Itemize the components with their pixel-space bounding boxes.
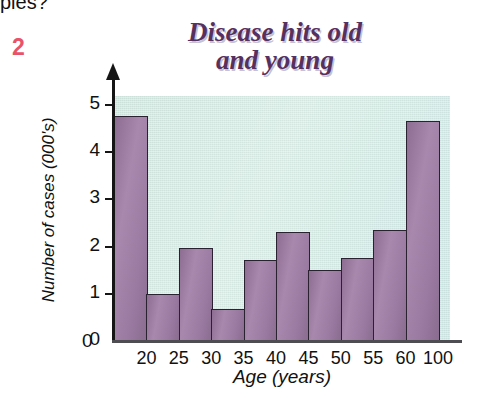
bar [373, 230, 407, 341]
bar [406, 121, 440, 341]
y-tick-label: 5 [74, 92, 100, 114]
bar [244, 260, 278, 341]
y-tick-mark [105, 293, 113, 295]
bar [146, 294, 180, 341]
y-tick-mark [105, 246, 113, 248]
y-tick-mark [105, 104, 113, 106]
bar [179, 248, 213, 341]
y-axis-title: Number of cases (000's) [39, 105, 59, 315]
y-tick-label: 3 [74, 186, 100, 208]
y-axis-arrow-icon [106, 63, 120, 80]
bar [211, 309, 245, 341]
y-tick-label: 2 [74, 234, 100, 256]
x-axis-line [112, 340, 462, 343]
y-tick-label: 4 [74, 139, 100, 161]
y-tick-label: 1 [74, 281, 100, 303]
bar [308, 270, 342, 341]
y-tick-mark [105, 151, 113, 153]
y-axis-line [112, 76, 115, 342]
bar [341, 258, 375, 341]
bar [114, 116, 148, 341]
x-axis-title: Age (years) [114, 366, 450, 388]
bar [276, 232, 310, 341]
y-tick-mark [105, 198, 113, 200]
